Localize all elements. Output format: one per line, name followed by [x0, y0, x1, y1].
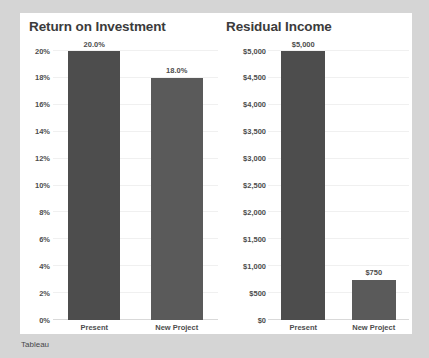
bar-value-label: 18.0% [151, 67, 203, 75]
y-axis-tick-label: $5,000 [243, 47, 266, 55]
y-axis-tick-label: 2% [39, 289, 50, 297]
bar-group[interactable]: 20.0% [68, 37, 120, 320]
bars-roi: 20.0%18.0% [53, 51, 218, 320]
bar-value-label: $5,000 [281, 41, 325, 49]
dashboard-panel: Return on Investment 20.0%18.0% 0%2%4%6%… [20, 13, 412, 334]
y-axis-tick-label: $0 [258, 316, 266, 324]
bars-residual: $5,000$750 [268, 51, 409, 320]
y-axis-tick-label: 10% [35, 182, 50, 190]
plot-area-residual: $5,000$750 [268, 51, 409, 320]
y-axis-tick-label: $1,000 [243, 262, 266, 270]
y-axis-tick-label: $4,500 [243, 74, 266, 82]
dashboard-root: Return on Investment 20.0%18.0% 0%2%4%6%… [0, 0, 429, 358]
y-axis-tick-label: $1,500 [243, 236, 266, 244]
y-axis-tick-label: $3,500 [243, 128, 266, 136]
plot-area-roi: 20.0%18.0% [53, 51, 218, 320]
bar[interactable] [151, 78, 203, 320]
x-axis-category-label: New Project [136, 324, 219, 332]
y-axis-tick-label: $2,500 [243, 182, 266, 190]
charts-row: Return on Investment 20.0%18.0% 0%2%4%6%… [20, 13, 412, 334]
y-axis-tick-label: 8% [39, 209, 50, 217]
footer-brand-label: Tableau [21, 341, 49, 349]
y-axis-tick-label: $4,000 [243, 101, 266, 109]
x-axis-category-label: Present [268, 324, 339, 332]
y-axis-tick-label: 16% [35, 101, 50, 109]
chart-title-return-on-investment: Return on Investment [29, 19, 166, 34]
y-axis-residual: $0$500$1,000$1,500$2,000$2,500$3,000$3,5… [226, 51, 266, 320]
y-axis-tick-label: 20% [35, 47, 50, 55]
bar[interactable] [68, 51, 120, 320]
y-axis-tick-label: $2,000 [243, 209, 266, 217]
bar-value-label: $750 [352, 269, 396, 277]
y-axis-tick-label: 0% [39, 316, 50, 324]
bar[interactable] [281, 51, 325, 320]
x-axis-roi: PresentNew Project [53, 321, 218, 337]
y-axis-tick-label: 18% [35, 74, 50, 82]
y-axis-tick-label: 14% [35, 128, 50, 136]
x-axis-category-label: Present [53, 324, 136, 332]
y-axis-tick-label: 12% [35, 155, 50, 163]
chart-residual-income: Residual Income $5,000$750 $0$500$1,000$… [220, 13, 412, 334]
x-axis-category-label: New Project [339, 324, 410, 332]
y-axis-tick-label: 6% [39, 236, 50, 244]
bar-group[interactable]: $750 [352, 266, 396, 320]
bar[interactable] [352, 280, 396, 320]
y-axis-roi: 0%2%4%6%8%10%12%14%16%18%20% [20, 51, 50, 320]
chart-return-on-investment: Return on Investment 20.0%18.0% 0%2%4%6%… [20, 13, 220, 334]
y-axis-tick-label: 4% [39, 262, 50, 270]
bar-value-label: 20.0% [68, 41, 120, 49]
y-axis-tick-label: $3,000 [243, 155, 266, 163]
y-axis-tick-label: $500 [249, 289, 266, 297]
chart-title-residual-income: Residual Income [226, 19, 332, 34]
x-axis-residual: PresentNew Project [268, 321, 409, 337]
bar-group[interactable]: 18.0% [151, 64, 203, 320]
bar-group[interactable]: $5,000 [281, 37, 325, 320]
